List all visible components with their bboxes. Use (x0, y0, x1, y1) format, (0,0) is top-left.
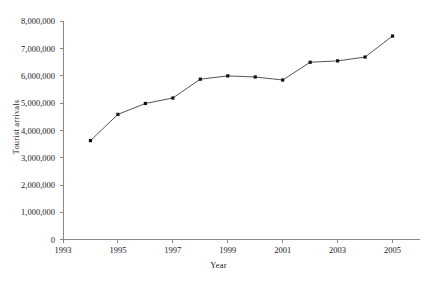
data-point-marker (336, 59, 339, 62)
x-axis-tick-label: 2001 (274, 245, 291, 255)
x-axis-title: Year (0, 260, 437, 270)
x-axis-tick-label: 1995 (109, 245, 126, 255)
data-point-marker (144, 102, 147, 105)
y-axis-tick-label: 7,000,000 (0, 44, 55, 54)
chart-container: Tourist arrivals Year 01,000,0002,000,00… (0, 0, 437, 284)
y-axis-tick-label: 8,000,000 (0, 16, 55, 26)
series-line-tourist-arrivals (90, 36, 392, 141)
y-axis-tick-label: 4,000,000 (0, 126, 55, 136)
x-axis-tick-label: 2003 (329, 245, 346, 255)
line-chart-plot-area (0, 0, 437, 284)
axes-group (60, 21, 421, 243)
data-point-marker (391, 34, 394, 37)
data-point-marker (281, 78, 284, 81)
y-axis-tick-label: 6,000,000 (0, 71, 55, 81)
data-point-marker (226, 74, 229, 77)
y-axis-tick-label: 1,000,000 (0, 207, 55, 217)
data-series-group (89, 34, 394, 142)
x-axis-tick-label: 1999 (219, 245, 236, 255)
data-point-marker (89, 139, 92, 142)
data-point-marker (116, 113, 119, 116)
data-point-marker (254, 75, 257, 78)
data-point-marker (199, 78, 202, 81)
data-point-marker (309, 61, 312, 64)
data-point-marker (171, 96, 174, 99)
y-axis-tick-label: 2,000,000 (0, 180, 55, 190)
data-point-marker (363, 55, 366, 58)
x-axis-tick-label: 1993 (55, 245, 72, 255)
y-axis-tick-label: 5,000,000 (0, 98, 55, 108)
y-axis-tick-label: 3,000,000 (0, 153, 55, 163)
x-axis-tick-label: 2005 (384, 245, 401, 255)
y-axis-tick-label: 0 (0, 235, 55, 245)
x-axis-tick-label: 1997 (164, 245, 181, 255)
